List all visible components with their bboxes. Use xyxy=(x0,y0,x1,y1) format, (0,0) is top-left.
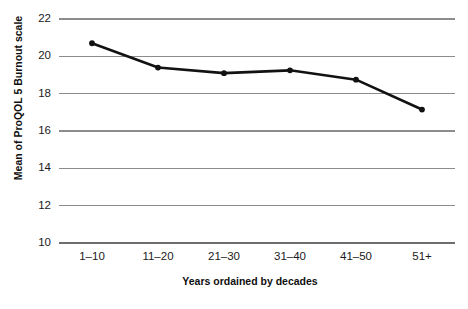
y-tick-label: 10 xyxy=(38,236,51,248)
y-axis-title: Mean of ProQOL 5 Burnout scale xyxy=(12,16,24,180)
data-point xyxy=(353,77,359,83)
y-tick-label: 20 xyxy=(38,49,51,61)
y-tick-label: 12 xyxy=(38,199,51,211)
y-tick-label: 16 xyxy=(38,124,51,136)
x-tick-label: 31–40 xyxy=(274,250,306,262)
chart-figure: 10121416182022 1–1011–2021–3031–4041–505… xyxy=(0,0,468,309)
x-tick-label: 21–30 xyxy=(208,250,240,262)
data-point xyxy=(221,70,227,76)
x-axis-tick-labels: 1–1011–2021–3031–4041–5051+ xyxy=(79,250,432,262)
y-axis-tick-labels: 10121416182022 xyxy=(38,12,51,248)
x-tick-label: 11–20 xyxy=(142,250,173,262)
x-axis-title: Years ordained by decades xyxy=(182,275,318,287)
y-tick-label: 22 xyxy=(38,12,51,24)
series-line-burnout xyxy=(92,43,422,109)
line-chart: 10121416182022 1–1011–2021–3031–4041–505… xyxy=(0,0,468,309)
x-tick-label: 1–10 xyxy=(79,250,105,262)
data-point xyxy=(89,40,95,46)
x-tick-label: 51+ xyxy=(412,250,432,262)
data-point xyxy=(155,65,161,71)
data-point-markers xyxy=(89,40,425,112)
data-point xyxy=(419,107,425,113)
y-tick-label: 18 xyxy=(38,87,51,99)
x-tick-label: 41–50 xyxy=(340,250,372,262)
y-tick-label: 14 xyxy=(38,161,51,173)
data-point xyxy=(287,67,293,73)
